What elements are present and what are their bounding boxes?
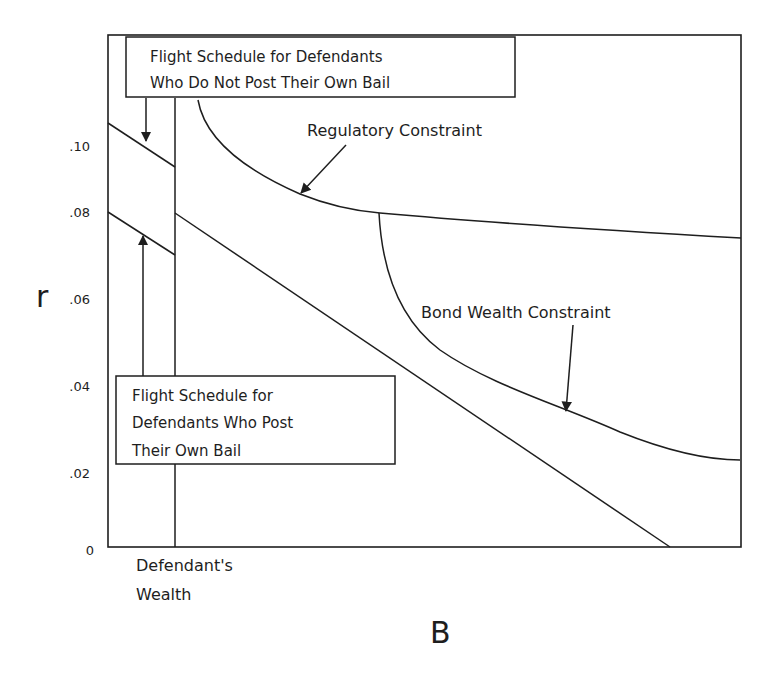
y-axis-title: r (36, 279, 49, 314)
flight-schedule-no-post-line (108, 123, 175, 167)
bond-wealth-constraint-label: Bond Wealth Constraint (421, 303, 611, 322)
callout-no-post-line2: Who Do Not Post Their Own Bail (150, 74, 390, 92)
defendant-wealth-label-line1: Defendant's (136, 556, 233, 575)
diagram-canvas: Flight Schedule for Defendants Who Do No… (0, 0, 775, 679)
y-tick-002: .02 (69, 466, 90, 481)
arrow-bond-wealth-constraint (566, 325, 573, 411)
plot-frame (108, 35, 741, 547)
bail-flight-diagram: Flight Schedule for Defendants Who Do No… (0, 0, 775, 679)
y-tick-0: 0 (86, 543, 94, 558)
x-axis-title: B (430, 615, 451, 650)
flight-schedule-post-line (108, 212, 175, 255)
bond-wealth-constraint-curve (379, 213, 740, 460)
defendant-wealth-label-line2: Wealth (136, 585, 191, 604)
y-tick-010: .10 (69, 139, 90, 154)
arrow-regulatory-constraint (301, 145, 346, 193)
callout-post-line3: Their Own Bail (131, 442, 241, 460)
regulatory-constraint-label: Regulatory Constraint (307, 121, 482, 140)
callout-post-line1: Flight Schedule for (132, 387, 274, 405)
callout-no-post-line1: Flight Schedule for Defendants (150, 48, 383, 66)
y-tick-004: .04 (69, 379, 90, 394)
callout-post-line2: Defendants Who Post (132, 414, 293, 432)
y-tick-006: .06 (69, 292, 90, 307)
y-tick-008: .08 (69, 205, 90, 220)
